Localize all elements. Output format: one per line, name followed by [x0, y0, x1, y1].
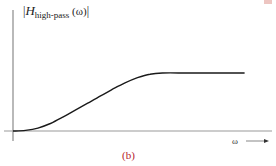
high-pass-response-figure: |Hhigh-pass (ω)| ω (b) [0, 0, 276, 166]
transfer-function-symbol: H [25, 3, 34, 18]
figure-caption: (b) [122, 149, 135, 161]
transfer-function-argument: (ω) [69, 5, 86, 17]
corner-mark [264, 0, 272, 4]
y-axis-label: |Hhigh-pass (ω)| [23, 4, 89, 19]
x-axis-label: ω [232, 136, 238, 146]
abs-bar-close: | [87, 4, 89, 18]
arrow-head-icon [264, 139, 269, 143]
response-curve [13, 73, 245, 131]
transfer-function-subscript: high-pass [35, 10, 70, 20]
omega-symbol: ω [232, 136, 238, 146]
